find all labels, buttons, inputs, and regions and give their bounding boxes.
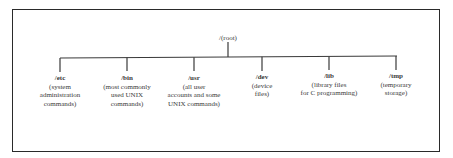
node-dev: /dev (device files) (252, 73, 273, 99)
node-desc: (library files (301, 81, 358, 90)
node-desc: accounts and some (168, 91, 221, 100)
node-desc: (device (252, 82, 273, 91)
node-lib: /lib (library files for C programming) (301, 72, 358, 98)
node-name: /bin (103, 74, 151, 83)
node-desc: administration (40, 91, 80, 100)
node-desc: commands) (40, 100, 80, 109)
node-usr: /usr (all user accounts and some UNIX co… (168, 74, 221, 108)
node-name: /lib (301, 72, 358, 81)
node-desc: files) (252, 90, 273, 99)
node-desc: used UNIX (103, 91, 151, 100)
node-name: /usr (168, 74, 221, 83)
node-tmp: /tmp (temporary storage) (380, 72, 411, 98)
node-desc: (all user (168, 83, 221, 92)
node-desc: (most commonly (103, 83, 151, 92)
root-label: /(root) (219, 34, 237, 42)
root-node: /(root) (219, 34, 237, 43)
node-desc: storage) (380, 89, 411, 98)
node-name: /etc (40, 74, 80, 83)
node-desc: UNIX commands) (168, 100, 221, 109)
node-desc: (system (40, 83, 80, 92)
node-name: /tmp (380, 72, 411, 81)
node-desc: for C programming) (301, 89, 358, 98)
node-bin: /bin (most commonly used UNIX commands) (103, 74, 151, 108)
node-name: /dev (252, 73, 273, 82)
node-etc: /etc (system administration commands) (40, 74, 80, 108)
node-desc: (temporary (380, 81, 411, 90)
node-desc: commands) (103, 100, 151, 109)
